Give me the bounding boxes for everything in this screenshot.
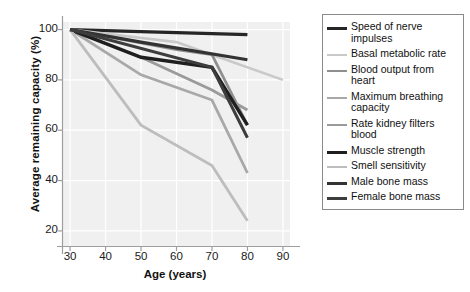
legend-item[interactable]: Blood output from heart — [326, 64, 459, 87]
x-axis-tick-labels: 30405060708090 — [63, 250, 290, 266]
plot-lines — [63, 22, 290, 246]
x-axis-tick-label: 80 — [234, 250, 260, 262]
legend-item-label: Female bone mass — [351, 191, 440, 203]
plot-area — [63, 22, 290, 246]
x-axis-tick-label: 60 — [164, 250, 190, 262]
legend-line-swatch — [327, 124, 347, 127]
y-axis-tick-label: 40 — [32, 173, 58, 185]
legend-line-swatch — [327, 166, 347, 168]
chart-figure: Average remaining capacity (%) 204060801… — [0, 0, 470, 292]
legend-item[interactable]: Female bone mass — [326, 191, 459, 203]
legend-item-label: Maximum breathing capacity — [351, 91, 459, 114]
legend-item[interactable]: Rate kidney filters blood — [326, 118, 459, 141]
y-axis-tick-label: 100 — [32, 22, 58, 34]
legend-item[interactable]: Muscle strength — [326, 145, 459, 157]
y-axis-tick-labels: 20406080100 — [28, 22, 58, 246]
legend-item-label: Rate kidney filters blood — [351, 118, 459, 141]
y-axis-tick-label: 80 — [32, 72, 58, 84]
legend-line-swatch — [327, 197, 347, 200]
legend-item[interactable]: Basal metabolic rate — [326, 48, 459, 60]
x-axis-tick-label: 50 — [128, 250, 154, 262]
series-line — [70, 30, 247, 173]
legend-item[interactable]: Male bone mass — [326, 176, 459, 188]
legend-item[interactable]: Speed of nerve impulses — [326, 21, 459, 44]
legend-line-swatch — [327, 27, 347, 30]
legend-item-label: Basal metabolic rate — [351, 48, 446, 60]
legend-line-swatch — [327, 70, 347, 73]
legend-item-label: Muscle strength — [351, 145, 425, 157]
legend-item-label: Blood output from heart — [351, 64, 459, 87]
x-axis-tick-label: 70 — [199, 250, 225, 262]
y-axis-tick-label: 20 — [32, 223, 58, 235]
legend-line-swatch — [327, 97, 347, 100]
legend-line-swatch — [327, 54, 347, 56]
x-axis-tick-label: 40 — [93, 250, 119, 262]
legend-item-label: Male bone mass — [351, 176, 428, 188]
legend-item[interactable]: Smell sensitivity — [326, 160, 459, 172]
y-axis-tick-label: 60 — [32, 122, 58, 134]
x-axis-title: Age (years) — [60, 268, 290, 280]
legend-item-label: Speed of nerve impulses — [351, 21, 459, 44]
legend-item[interactable]: Maximum breathing capacity — [326, 91, 459, 114]
legend-line-swatch — [327, 151, 347, 155]
x-axis-tick-label: 30 — [57, 250, 83, 262]
legend-line-swatch — [327, 182, 347, 185]
legend-item-label: Smell sensitivity — [351, 160, 426, 172]
chart-legend: Speed of nerve impulsesBasal metabolic r… — [322, 14, 464, 210]
x-axis-tick-label: 90 — [270, 250, 296, 262]
